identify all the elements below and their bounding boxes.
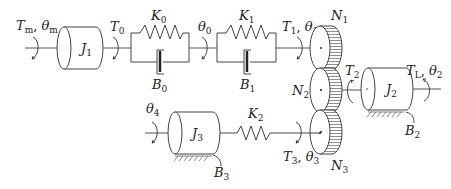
gear-n2 xyxy=(310,68,342,112)
mechanical-system-diagram: Tm, θm J1 T0 K0 B0 θ0 xyxy=(0,0,451,189)
label-theta4: θ4 xyxy=(146,101,160,118)
label-n2: N2 xyxy=(291,83,309,100)
label-tm-theta-m: Tm, θm xyxy=(16,18,58,35)
label-t0: T0 xyxy=(110,19,125,36)
spring-k2 xyxy=(220,126,321,140)
ground-hatch-b2 xyxy=(367,112,414,123)
label-t2: T2 xyxy=(345,63,359,80)
label-k0: K0 xyxy=(150,8,167,25)
label-b1: B1 xyxy=(239,77,255,94)
label-tl-theta2: TL, θ2 xyxy=(406,63,442,80)
spring-damper-k0-b0 xyxy=(131,25,189,74)
label-b2: B2 xyxy=(404,123,420,140)
label-j3: J3 xyxy=(189,126,203,143)
label-theta0: θ0 xyxy=(198,19,212,36)
label-n3: N3 xyxy=(330,158,348,175)
inertia-j1 xyxy=(57,27,103,69)
torque-arrow-t2-icon xyxy=(347,80,354,103)
label-t3-theta3: T3, θ3 xyxy=(283,149,320,166)
gear-n1 xyxy=(310,26,342,70)
label-j2: J2 xyxy=(383,82,397,99)
label-b3: B3 xyxy=(213,165,230,182)
spring-damper-k1-b1 xyxy=(217,25,276,74)
label-k2: K2 xyxy=(247,106,263,123)
label-k1: K1 xyxy=(238,8,254,25)
torque-arrow-tl-icon xyxy=(423,79,430,101)
label-j1: J1 xyxy=(78,41,92,58)
label-b0: B0 xyxy=(151,77,168,94)
gear-n3 xyxy=(310,110,342,154)
label-n1: N1 xyxy=(330,8,348,25)
